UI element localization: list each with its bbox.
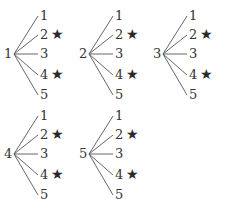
leaf-node: 3 [40,47,48,60]
leaf-node: 5 [189,88,197,101]
leaf-label: 3 [115,146,123,161]
star-icon: ★ [200,26,213,42]
root-node: 1 [4,47,12,60]
star-icon: ★ [126,166,139,182]
leaf-node: 2★ [40,128,64,141]
leaf-node: 1 [115,9,123,22]
leaf-label: 4 [115,167,123,182]
leaf-node: 5 [40,188,48,199]
root-node: 5 [79,147,87,160]
leaf-node: 4★ [115,68,139,81]
root-node: 2 [79,47,87,60]
leaf-label: 5 [40,87,48,102]
star-icon: ★ [126,126,139,142]
leaf-node: 5 [40,88,48,101]
leaf-node: 5 [115,88,123,101]
leaf-label: 4 [40,167,48,182]
leaf-node: 1 [115,109,123,122]
leaf-node: 3 [115,47,123,60]
leaf-label: 3 [40,46,48,61]
star-icon: ★ [200,66,213,82]
leaf-label: 5 [189,87,197,102]
leaf-label: 2 [40,27,48,42]
leaf-node: 2★ [40,28,64,41]
leaf-node: 1 [40,109,48,122]
leaf-label: 1 [115,108,123,123]
leaf-node: 4★ [189,68,213,81]
star-icon: ★ [126,66,139,82]
root-node: 4 [4,147,12,160]
tree-4: 412★34★5 [2,108,77,199]
leaf-node: 3 [115,147,123,160]
leaf-label: 2 [189,27,197,42]
star-icon: ★ [126,26,139,42]
leaf-label: 1 [189,8,197,23]
leaf-label: 5 [40,187,48,199]
leaf-node: 4★ [115,168,139,181]
leaf-node: 3 [40,147,48,160]
leaf-label: 3 [189,46,197,61]
leaf-node: 4★ [40,68,64,81]
star-icon: ★ [51,126,64,142]
leaf-label: 5 [115,187,123,199]
leaf-node: 2★ [189,28,213,41]
leaf-label: 5 [115,87,123,102]
leaf-label: 3 [40,146,48,161]
leaf-label: 2 [40,127,48,142]
leaf-label: 2 [115,27,123,42]
leaf-label: 3 [115,46,123,61]
leaf-node: 2★ [115,28,139,41]
star-icon: ★ [51,26,64,42]
leaf-node: 5 [115,188,123,199]
leaf-label: 4 [40,67,48,82]
leaf-label: 4 [189,67,197,82]
leaf-node: 4★ [40,168,64,181]
leaf-node: 3 [189,47,197,60]
leaf-label: 2 [115,127,123,142]
leaf-label: 1 [115,8,123,23]
tree-5: 512★34★5 [77,108,152,199]
tree-3: 312★34★5 [151,8,226,103]
tree-2: 212★34★5 [77,8,152,103]
leaf-node: 1 [189,9,197,22]
star-icon: ★ [51,66,64,82]
leaf-label: 4 [115,67,123,82]
leaf-node: 2★ [115,128,139,141]
root-node: 3 [153,47,161,60]
leaf-label: 1 [40,8,48,23]
star-icon: ★ [51,166,64,182]
tree-1: 112★34★5 [2,8,77,103]
leaf-node: 1 [40,9,48,22]
leaf-label: 1 [40,108,48,123]
